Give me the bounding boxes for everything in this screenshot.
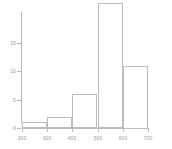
histogram-bar (123, 66, 148, 129)
histogram-bar (72, 94, 97, 128)
histogram-bar (98, 3, 123, 128)
histogram-plot: 051015 200300400500600700 (0, 0, 172, 149)
histogram-bars (0, 0, 172, 149)
histogram-bar (47, 117, 72, 128)
histogram-bar (22, 122, 47, 128)
